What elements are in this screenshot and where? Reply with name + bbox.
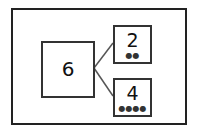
part-box-2: 4 ●●●●: [113, 78, 152, 117]
part-2-value: 4: [115, 83, 150, 103]
part-box-1: 2 ●●: [113, 25, 152, 64]
whole-value: 6: [62, 57, 75, 81]
whole-box: 6: [41, 41, 95, 98]
part-1-dots: ●●: [115, 52, 150, 60]
connector-lines: [0, 0, 201, 132]
part-2-dots: ●●●●: [115, 105, 150, 113]
part-1-value: 2: [115, 30, 150, 50]
